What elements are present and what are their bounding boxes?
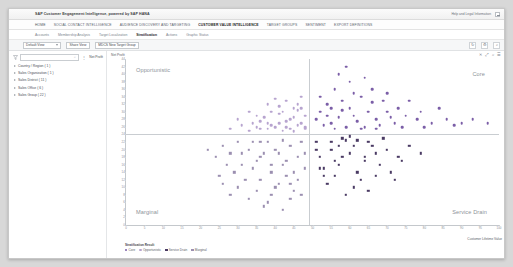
data-point[interactable]: [349, 107, 352, 110]
search-icon[interactable]: ⌕: [493, 42, 500, 49]
data-point[interactable]: [281, 129, 284, 132]
data-point[interactable]: [296, 124, 299, 127]
logout-icon[interactable]: [495, 12, 500, 17]
data-point[interactable]: [326, 114, 329, 117]
data-point[interactable]: [397, 156, 399, 158]
data-point[interactable]: [263, 205, 265, 207]
data-point[interactable]: [371, 145, 373, 147]
data-point[interactable]: [218, 175, 220, 177]
data-point[interactable]: [349, 135, 351, 137]
data-point[interactable]: [263, 152, 265, 154]
data-point[interactable]: [337, 145, 339, 147]
data-point[interactable]: [266, 122, 269, 125]
data-point[interactable]: [304, 127, 307, 130]
data-point[interactable]: [375, 118, 378, 121]
data-point[interactable]: [278, 152, 280, 154]
data-point[interactable]: [371, 88, 374, 91]
data-point[interactable]: [300, 107, 303, 110]
data-point[interactable]: [252, 122, 255, 125]
data-point[interactable]: [393, 179, 395, 181]
data-point[interactable]: [393, 122, 396, 125]
data-point[interactable]: [334, 160, 336, 162]
data-point[interactable]: [229, 127, 232, 130]
data-point[interactable]: [371, 101, 374, 104]
subnav-item-target-localization[interactable]: Target Localization: [99, 33, 127, 37]
data-point[interactable]: [281, 163, 283, 165]
data-point[interactable]: [296, 103, 299, 106]
data-point[interactable]: [252, 141, 254, 143]
data-point[interactable]: [337, 163, 339, 165]
resize-icon[interactable]: ⤢: [485, 53, 489, 57]
data-point[interactable]: [240, 163, 242, 165]
data-point[interactable]: [337, 116, 340, 119]
subnav-item-stratification[interactable]: Stratification: [136, 33, 157, 37]
data-point[interactable]: [281, 209, 283, 211]
data-point[interactable]: [274, 148, 276, 150]
data-point[interactable]: [330, 141, 332, 143]
data-point[interactable]: [240, 124, 243, 127]
data-point[interactable]: [322, 167, 324, 169]
data-point[interactable]: [259, 127, 262, 130]
data-point[interactable]: [293, 190, 295, 192]
data-point[interactable]: [240, 152, 242, 154]
data-point[interactable]: [237, 141, 239, 143]
data-point[interactable]: [367, 111, 370, 114]
scatter-plot-area[interactable]: Opportunistic Core Marginal Service Drai…: [125, 59, 499, 226]
data-point[interactable]: [259, 156, 261, 158]
overflow-dots-icon[interactable]: ⋮: [81, 55, 87, 60]
data-point[interactable]: [274, 186, 276, 188]
data-point[interactable]: [267, 201, 269, 203]
data-point[interactable]: [416, 118, 419, 121]
search-input[interactable]: ⌕: [20, 54, 79, 61]
data-point[interactable]: [352, 145, 354, 147]
data-point[interactable]: [472, 118, 475, 121]
legend-item[interactable]: Marginal: [191, 248, 206, 252]
data-point[interactable]: [334, 127, 337, 130]
data-point[interactable]: [274, 97, 277, 100]
data-point[interactable]: [233, 171, 235, 173]
nav-item-export-definitions[interactable]: EXPORT DEFINITIONS: [334, 23, 372, 27]
zoom-icon[interactable]: ⌕: [492, 53, 494, 57]
data-point[interactable]: [270, 163, 272, 165]
data-point[interactable]: [278, 105, 281, 108]
data-point[interactable]: [237, 118, 240, 121]
refresh-icon[interactable]: ↻: [469, 42, 476, 49]
data-point[interactable]: [401, 160, 403, 162]
data-point[interactable]: [438, 107, 441, 110]
data-point[interactable]: [337, 73, 340, 76]
data-point[interactable]: [222, 145, 224, 147]
data-point[interactable]: [375, 175, 377, 177]
data-point[interactable]: [453, 124, 456, 127]
nav-item-audience-discovery-and-targeting[interactable]: AUDIENCE DISCOVERY AND TARGETING: [120, 23, 190, 27]
data-point[interactable]: [345, 139, 347, 141]
data-point[interactable]: [266, 127, 269, 130]
nav-item-social-contact-intelligence[interactable]: SOCIAL CONTACT INTELLIGENCE: [54, 23, 112, 27]
data-point[interactable]: [281, 111, 284, 114]
data-point[interactable]: [378, 124, 381, 127]
chevron-right-icon[interactable]: [14, 72, 16, 74]
data-point[interactable]: [330, 122, 333, 125]
tree-item-sales-group[interactable]: Sales Group ( 22 ): [14, 93, 106, 97]
data-point[interactable]: [296, 156, 298, 158]
data-point[interactable]: [349, 152, 351, 154]
data-point[interactable]: [289, 127, 292, 130]
data-point[interactable]: [229, 152, 231, 154]
data-point[interactable]: [289, 197, 291, 199]
data-point[interactable]: [352, 114, 355, 117]
data-point[interactable]: [263, 116, 266, 119]
data-point[interactable]: [255, 190, 257, 192]
data-point[interactable]: [248, 129, 251, 132]
data-point[interactable]: [244, 179, 246, 181]
data-point[interactable]: [252, 167, 254, 169]
legend-item[interactable]: Service Drain: [165, 248, 187, 252]
data-point[interactable]: [341, 137, 343, 139]
data-point[interactable]: [293, 107, 296, 110]
data-point[interactable]: [293, 130, 296, 133]
data-point[interactable]: [322, 175, 324, 177]
data-point[interactable]: [281, 139, 283, 141]
subnav-item-graphic-status[interactable]: Graphic Status: [186, 33, 208, 37]
data-point[interactable]: [319, 95, 322, 98]
data-point[interactable]: [386, 111, 389, 114]
data-point[interactable]: [293, 116, 296, 119]
tree-item-sales-organization[interactable]: Sales Organization ( 1 ): [14, 71, 106, 75]
